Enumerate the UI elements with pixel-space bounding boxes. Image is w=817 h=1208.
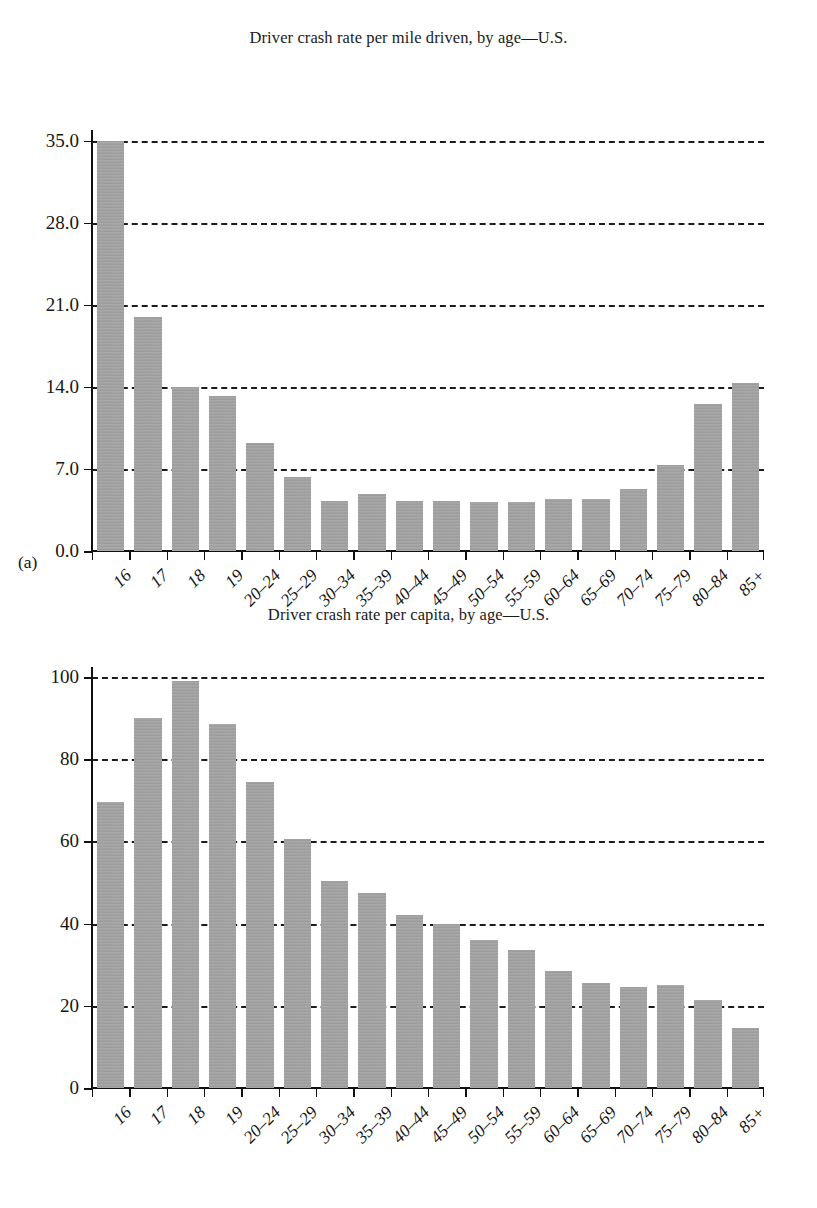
bar [732, 1028, 759, 1088]
x-tick-mark [92, 551, 93, 560]
bar [134, 718, 161, 1088]
bar-series-b [92, 673, 764, 1088]
figure-panel-a: Driver crash rate per mile driven, by ag… [0, 0, 817, 600]
x-tick-label: 65–69 [575, 1102, 621, 1148]
x-tick-label: 70–74 [612, 1102, 658, 1148]
x-tick-mark [615, 1088, 616, 1097]
x-tick-mark [353, 551, 354, 560]
x-tick-mark [428, 551, 429, 560]
bar [508, 502, 535, 551]
x-tick-mark [129, 551, 130, 560]
x-tick-mark [241, 551, 242, 560]
bar [694, 404, 721, 551]
bar [582, 983, 609, 1088]
bar [321, 501, 348, 551]
x-tick-mark [652, 1088, 653, 1097]
bar [396, 501, 423, 551]
bar [657, 465, 684, 551]
x-tick-label: 17 [146, 1102, 173, 1129]
bar [732, 383, 759, 551]
x-tick-mark [577, 551, 578, 560]
x-tick-mark [727, 551, 728, 560]
x-tick-label: 19 [220, 1102, 247, 1129]
bar [470, 502, 497, 551]
x-tick-mark [391, 551, 392, 560]
x-tick-mark [167, 1088, 168, 1097]
bar [657, 985, 684, 1088]
x-tick-mark [503, 1088, 504, 1097]
bar [545, 499, 572, 551]
bar [284, 477, 311, 551]
x-tick-label: 35–39 [351, 1102, 397, 1148]
x-tick-mark [167, 551, 168, 560]
x-tick-mark [391, 1088, 392, 1097]
bar [433, 501, 460, 551]
x-tick-label: 20–24 [239, 1102, 285, 1148]
y-tick-label: 14.0 [46, 375, 79, 397]
y-tick-label: 7.0 [55, 457, 79, 479]
y-tick-label: 40 [60, 912, 79, 934]
bar [620, 987, 647, 1088]
x-tick-mark [577, 1088, 578, 1097]
y-tick-label: 80 [60, 748, 79, 770]
x-tick-label: 55–59 [500, 1102, 546, 1148]
x-tick-label: 75–79 [650, 1102, 696, 1148]
x-tick-mark [652, 551, 653, 560]
plot-area-a: 0.07.014.021.028.035.0 1617181920–2425–2… [92, 136, 764, 551]
x-tick-label: 19 [220, 565, 247, 592]
bar [470, 940, 497, 1088]
x-tick-label: 18 [183, 565, 210, 592]
x-tick-mark [92, 1088, 93, 1097]
x-tick-mark [763, 1088, 764, 1097]
x-tick-mark [615, 551, 616, 560]
x-tick-mark [689, 551, 690, 560]
x-tick-mark [241, 1088, 242, 1097]
bar [134, 317, 161, 551]
x-tick-label: 50–54 [463, 1102, 509, 1148]
y-tick-label: 20 [60, 994, 79, 1016]
x-tick-label: 40–44 [388, 1102, 434, 1148]
bar [97, 802, 124, 1088]
bar [209, 396, 236, 551]
bar [358, 494, 385, 551]
bar [508, 950, 535, 1088]
bar [172, 387, 199, 551]
x-tick-label: 25–29 [276, 1102, 322, 1148]
x-tick-label: 30–34 [314, 1102, 360, 1148]
y-tick-label: 35.0 [46, 129, 79, 151]
y-tick-label: 100 [51, 666, 80, 688]
bar-series-a [92, 136, 764, 551]
x-tick-mark [129, 1088, 130, 1097]
x-tick-label: 18 [183, 1102, 210, 1129]
bar [172, 681, 199, 1088]
bar [582, 499, 609, 551]
bar [396, 915, 423, 1088]
x-tick-mark [428, 1088, 429, 1097]
x-tick-label: 16 [108, 1102, 135, 1129]
y-tick-label: 0 [70, 1077, 80, 1099]
x-tick-label: 16 [108, 565, 135, 592]
x-tick-mark [279, 1088, 280, 1097]
x-tick-mark [540, 551, 541, 560]
x-tick-mark [503, 551, 504, 560]
x-tick-mark [465, 551, 466, 560]
x-tick-label: 80–84 [687, 1102, 733, 1148]
x-tick-mark [689, 1088, 690, 1097]
x-tick-mark [353, 1088, 354, 1097]
bar [694, 1000, 721, 1088]
x-tick-label: 60–64 [538, 1102, 584, 1148]
bar [246, 782, 273, 1088]
x-tick-mark [279, 551, 280, 560]
x-tick-mark [465, 1088, 466, 1097]
x-tick-label: 45–49 [426, 1102, 472, 1148]
x-tick-mark [204, 1088, 205, 1097]
bar [209, 724, 236, 1088]
x-tick-mark [204, 551, 205, 560]
x-tick-mark [763, 551, 764, 560]
x-tick-label: 17 [146, 565, 173, 592]
x-tick-mark [316, 551, 317, 560]
bar [246, 443, 273, 551]
chart-title-b: Driver crash rate per capita, by age—U.S… [0, 595, 817, 625]
bar [321, 881, 348, 1089]
bar [358, 893, 385, 1088]
